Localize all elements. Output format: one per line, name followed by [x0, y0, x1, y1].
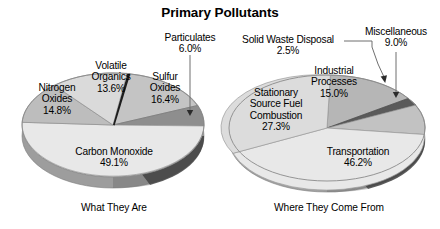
label-carbon-monoxide: Carbon Monoxide 49.1%: [48, 146, 180, 169]
label-miscellaneous: Miscellaneous 9.0%: [353, 26, 439, 49]
label-nitrogen-oxides: Nitrogen Oxides 14.8%: [24, 82, 90, 116]
label-sulfur-oxides: Sulfur Oxides 16.4%: [137, 71, 193, 105]
label-transportation: Transportation 46.2%: [306, 146, 410, 169]
label-solid-waste-disposal: Solid Waste Disposal 2.5%: [232, 34, 344, 57]
label-stationary-source-fuel-combustion: Stationary Source Fuel Combustion 27.3%: [240, 87, 312, 133]
pie-chart-figure: Primary Pollutants: [0, 0, 440, 229]
caption-where-they-come-from: Where They Come From: [250, 202, 408, 213]
label-particulates: Particulates 6.0%: [150, 32, 230, 55]
caption-what-they-are: What They Are: [38, 202, 190, 213]
